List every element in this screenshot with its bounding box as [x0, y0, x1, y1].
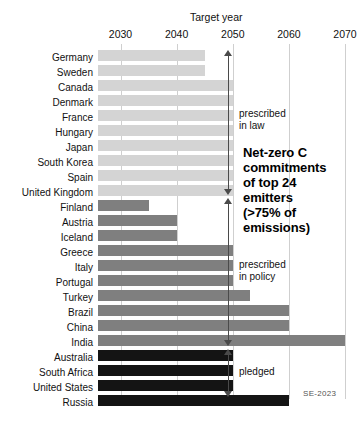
- x-tick-2040: 2040: [165, 28, 188, 40]
- category-label-united-states: United States: [33, 382, 93, 393]
- category-label-iceland: Iceland: [61, 232, 93, 243]
- category-label-india: India: [71, 337, 93, 348]
- bracket-pledged: [223, 349, 234, 397]
- category-label-portugal: Portugal: [56, 277, 93, 288]
- bar-brazil: [98, 305, 289, 316]
- bar-austria: [98, 215, 177, 226]
- category-label-australia: Australia: [54, 352, 93, 363]
- bar-united-states: [98, 380, 233, 391]
- bar-south-korea: [98, 155, 233, 166]
- category-label-italy: Italy: [75, 262, 93, 273]
- gridline-2070: [345, 44, 346, 399]
- category-label-greece: Greece: [60, 247, 93, 258]
- credit-label: SE-2023: [303, 389, 336, 398]
- category-label-brazil: Brazil: [68, 307, 93, 318]
- category-label-sweden: Sweden: [57, 67, 93, 78]
- bar-russia: [98, 395, 289, 406]
- category-label-united-kingdom: United Kingdom: [22, 187, 93, 198]
- bar-spain: [98, 170, 233, 181]
- bracket-label-pledged: pledged: [239, 366, 275, 378]
- bar-germany: [98, 50, 205, 61]
- chart-headline: Net-zero C commitments of top 24 emitter…: [243, 145, 326, 235]
- category-label-finland: Finland: [60, 202, 93, 213]
- category-label-austria: Austria: [62, 217, 93, 228]
- category-label-hungary: Hungary: [55, 127, 93, 138]
- arrow-head-down-icon: [224, 189, 232, 195]
- bracket-label-prescribed-in-law: prescribed in law: [239, 108, 286, 132]
- bar-canada: [98, 80, 233, 91]
- bar-japan: [98, 140, 233, 151]
- category-label-china: China: [67, 322, 93, 333]
- bracket-prescribed-in-policy: [223, 198, 234, 346]
- bar-france: [98, 110, 233, 121]
- net-zero-commitments-chart: Target year 2030 2040 2050 2060 2070 Ger…: [0, 0, 361, 429]
- bar-portugal: [98, 275, 233, 286]
- bar-australia: [98, 350, 233, 361]
- arrow-head-down-icon: [224, 391, 232, 397]
- category-label-germany: Germany: [52, 52, 93, 63]
- category-label-turkey: Turkey: [63, 292, 93, 303]
- bar-china: [98, 320, 289, 331]
- bar-denmark: [98, 95, 233, 106]
- x-tick-2060: 2060: [277, 28, 300, 40]
- category-label-south-africa: South Africa: [39, 367, 93, 378]
- arrow-head-down-icon: [224, 340, 232, 346]
- bar-sweden: [98, 65, 205, 76]
- category-label-russia: Russia: [62, 397, 93, 408]
- x-tick-2030: 2030: [109, 28, 132, 40]
- category-label-denmark: Denmark: [52, 97, 93, 108]
- category-axis: Germany Sweden Canada Denmark France Hun…: [0, 0, 93, 429]
- x-tick-2050: 2050: [221, 28, 244, 40]
- bar-hungary: [98, 125, 233, 136]
- bar-india: [98, 335, 345, 346]
- bar-south-africa: [98, 365, 233, 376]
- x-tick-2070: 2070: [333, 28, 356, 40]
- category-label-spain: Spain: [67, 172, 93, 183]
- bar-italy: [98, 260, 233, 271]
- bar-greece: [98, 245, 233, 256]
- category-label-japan: Japan: [66, 142, 93, 153]
- bracket-prescribed-in-law: [223, 50, 234, 195]
- category-label-france: France: [62, 112, 93, 123]
- x-axis-title: Target year: [190, 11, 243, 23]
- bar-iceland: [98, 230, 177, 241]
- bar-finland: [98, 200, 149, 211]
- bracket-label-prescribed-in-policy: prescribed in policy: [239, 259, 286, 283]
- bar-united-kingdom: [98, 185, 233, 196]
- category-label-canada: Canada: [58, 82, 93, 93]
- category-label-south-korea: South Korea: [37, 157, 93, 168]
